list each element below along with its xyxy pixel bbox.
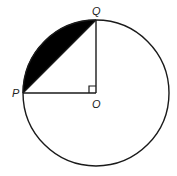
label-q: Q	[92, 5, 101, 17]
label-o: O	[92, 98, 101, 110]
circle-diagram: Q P O	[0, 0, 177, 176]
label-p: P	[12, 87, 20, 99]
right-angle-marker	[89, 86, 96, 93]
